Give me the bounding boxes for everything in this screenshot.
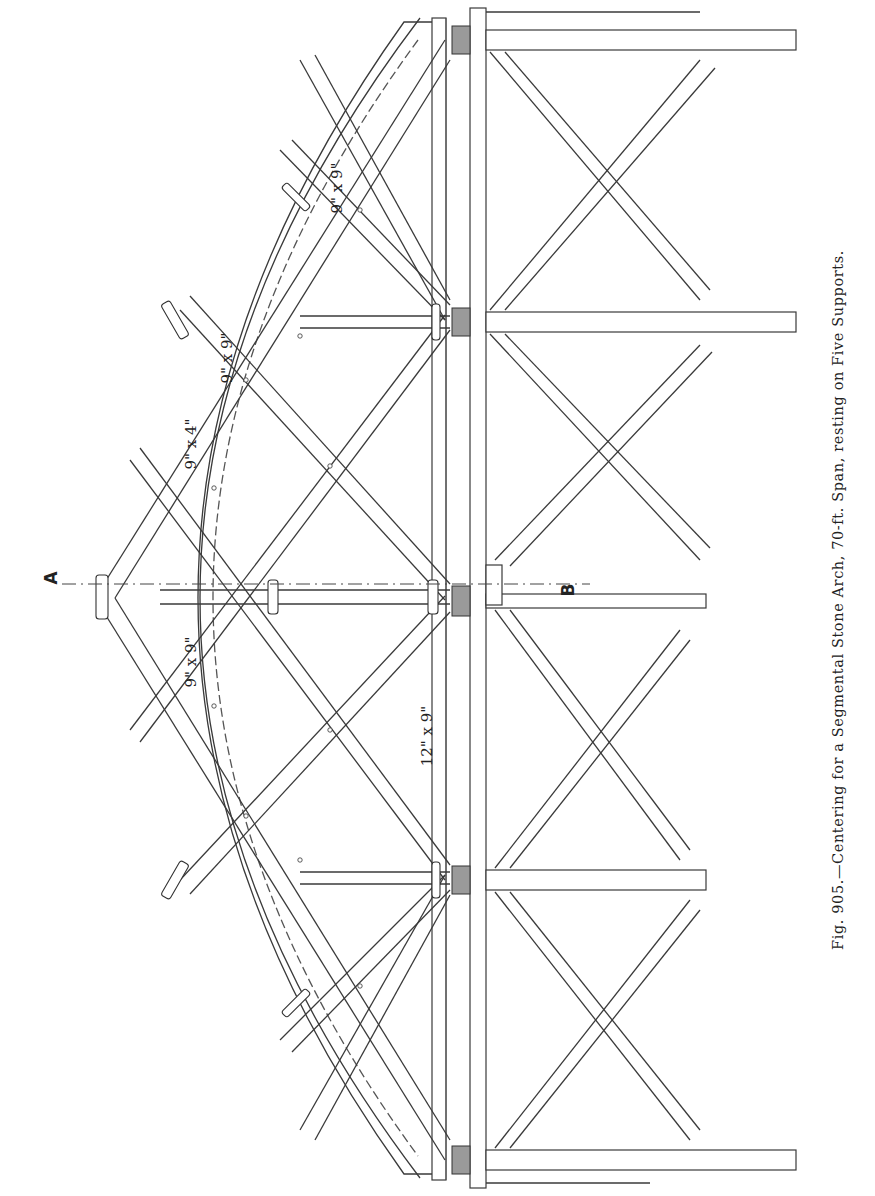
centering-drawing: A B 9" x 9" 9" x 9" 9" x 4" 9" x 9" 12" … (0, 0, 875, 1196)
support-post-4 (452, 866, 706, 894)
dim-label-rib-upper: 9" x 9" (328, 163, 346, 214)
support-post-1 (452, 26, 796, 54)
marker-a: A (41, 571, 61, 585)
section-line: A B (41, 571, 590, 597)
dim-label-crown-post: 9" x 9" (182, 637, 200, 688)
dim-label-sill: 12" x 9" (418, 706, 436, 766)
bolts (212, 208, 362, 988)
support-post-3 (452, 565, 706, 616)
support-post-2 (452, 308, 796, 336)
figure-caption: Fig. 905.—Centering for a Segmental Ston… (830, 250, 846, 950)
dim-label-brace: 9" x 4" (182, 419, 200, 470)
dim-label-rib-mid: 9" x 9" (218, 333, 236, 384)
support-posts (452, 26, 796, 1174)
rib-struts (160, 316, 450, 884)
support-post-5 (452, 1146, 796, 1174)
marker-b: B (558, 584, 578, 597)
